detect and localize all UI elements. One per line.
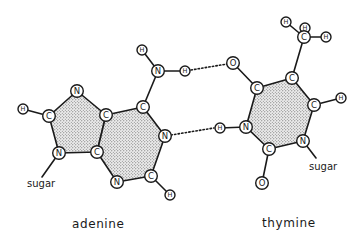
svg-text:N: N — [162, 131, 168, 141]
adenine-imidazole-ring — [49, 91, 106, 153]
atom-c5: C — [286, 72, 299, 85]
atom-o4: O — [227, 57, 240, 70]
atom-h6: H — [336, 93, 346, 103]
adenine-caption: adenine — [72, 217, 124, 231]
atom-o2: O — [256, 177, 269, 190]
svg-text:C: C — [94, 147, 100, 157]
atom-c6: C — [137, 101, 150, 114]
svg-text:N: N — [155, 66, 161, 76]
svg-text:H: H — [168, 191, 173, 199]
atom-c4: C — [91, 146, 104, 159]
svg-text:H: H — [140, 46, 145, 54]
svg-text:H: H — [218, 124, 223, 132]
svg-text:H: H — [324, 33, 329, 41]
atom-h6a: H — [137, 45, 147, 55]
atom-c2: C — [145, 170, 158, 183]
atom-hma: H — [281, 17, 291, 27]
atom-n3: N — [111, 176, 124, 189]
atom-c5: C — [100, 109, 113, 122]
hydrogen-bond-h6-o4 — [191, 64, 227, 70]
atom-c6: C — [308, 99, 321, 112]
atom-n7: N — [71, 85, 84, 98]
svg-text:C: C — [140, 102, 146, 112]
atom-n3: N — [240, 121, 253, 134]
atom-hmc: H — [321, 32, 331, 42]
atom-c8: C — [43, 110, 56, 123]
atom-n9: N — [53, 147, 66, 160]
atom-n6: N — [152, 65, 165, 78]
svg-text:N: N — [243, 122, 249, 132]
thymine-sugar-label: sugar — [309, 161, 338, 172]
adenine-sugar-label: sugar — [27, 178, 56, 189]
svg-text:C: C — [103, 110, 109, 120]
atom-h8: H — [18, 104, 28, 114]
base-pair-diagram: H C N C N C C N H H N C N H O C C H C H … — [0, 0, 363, 247]
atom-n1: N — [159, 130, 172, 143]
svg-text:C: C — [148, 171, 154, 181]
atom-h6b: H — [180, 66, 190, 76]
svg-text:C: C — [311, 100, 317, 110]
svg-text:C: C — [301, 32, 307, 42]
svg-text:O: O — [259, 178, 266, 188]
atom-n1: N — [297, 135, 310, 148]
atom-c4: C — [251, 82, 264, 95]
thymine-molecule — [220, 22, 341, 183]
svg-text:C: C — [266, 144, 272, 154]
svg-text:O: O — [230, 58, 237, 68]
svg-text:H: H — [183, 67, 188, 75]
hydrogen-bond-n1-h3 — [171, 128, 214, 135]
svg-text:N: N — [56, 148, 62, 158]
atom-h2: H — [165, 190, 175, 200]
svg-text:H: H — [339, 94, 344, 102]
svg-text:C: C — [289, 73, 295, 83]
thymine-caption: thymine — [262, 216, 316, 230]
svg-text:C: C — [46, 111, 52, 121]
svg-text:N: N — [74, 86, 80, 96]
svg-text:H: H — [21, 105, 26, 113]
atom-h3: H — [215, 123, 225, 133]
svg-text:H: H — [284, 18, 289, 26]
atom-c2: C — [263, 143, 276, 156]
svg-text:C: C — [254, 83, 260, 93]
atom-cm: C — [298, 31, 311, 44]
svg-text:N: N — [114, 177, 120, 187]
svg-text:N: N — [300, 136, 306, 146]
